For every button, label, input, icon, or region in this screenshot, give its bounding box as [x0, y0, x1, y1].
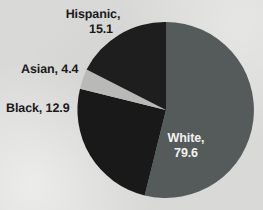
pie-label-black: Black, 12.9: [6, 101, 107, 116]
pie-label-white: White, 79.6: [152, 131, 220, 162]
pie-label-hispanic-name: Hispanic,: [66, 7, 121, 21]
pie-label-hispanic-value: 15.1: [56, 22, 130, 37]
pie-label-hispanic: Hispanic, 15.1: [56, 7, 130, 36]
pie-label-white-value: 79.6: [152, 146, 220, 161]
pie-label-asian: Asian, 4.4: [21, 62, 107, 77]
pie-chart: Hispanic, 15.1 Asian, 4.4 Black, 12.9 Wh…: [0, 0, 263, 210]
pie-label-white-name: White,: [168, 131, 205, 145]
